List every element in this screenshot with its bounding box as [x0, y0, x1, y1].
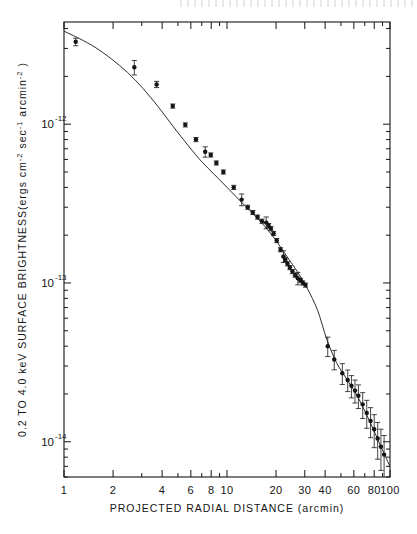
y-tick-exponent: -12 [55, 114, 67, 123]
data-point [209, 153, 213, 157]
data-point [303, 283, 307, 287]
data-point [221, 170, 225, 174]
data-point [194, 137, 198, 141]
data-point [353, 388, 357, 392]
x-tick-label: 6 [188, 484, 195, 496]
data-point [365, 411, 369, 415]
data-point [372, 427, 376, 431]
data-point [379, 445, 383, 449]
data-point [269, 226, 273, 230]
x-tick-label: 80 [368, 484, 381, 496]
data-point [368, 419, 372, 423]
y-tick-mantissa: 10 [41, 118, 54, 130]
data-point [382, 452, 386, 456]
data-point [260, 219, 264, 223]
data-point [154, 82, 158, 86]
data-point [345, 378, 349, 382]
data-point [132, 65, 136, 69]
data-point [245, 205, 249, 209]
x-tick-label: 30 [298, 484, 311, 496]
data-point [326, 344, 330, 348]
data-point [203, 150, 207, 154]
y-tick-exponent: -14 [55, 432, 67, 441]
y-tick-label: 10-13 [41, 273, 67, 289]
data-point [251, 210, 255, 214]
y-axis-title: 0.2 TO 4.0 keV SURFACE BRIGHTNESS(ergs c… [15, 62, 28, 437]
x-tick-label: 1 [61, 484, 68, 496]
y-tick-label: 10-12 [41, 114, 67, 130]
x-tick-label: 8 [208, 484, 215, 496]
x-tick-label: 4 [159, 484, 166, 496]
data-point [271, 231, 275, 235]
data-point [183, 123, 187, 127]
x-tick-label: 60 [347, 484, 360, 496]
data-point [214, 161, 218, 165]
x-tick-label: 10 [220, 484, 233, 496]
y-tick-exponent: -13 [55, 273, 67, 282]
data-point [255, 215, 259, 219]
y-tick-mantissa: 10 [41, 436, 54, 448]
plot-frame [64, 22, 390, 477]
data-point [275, 238, 279, 242]
x-tick-label: 40 [319, 484, 332, 496]
data-point [239, 197, 243, 201]
y-tick-label: 10-14 [41, 432, 67, 448]
y-axis-title-text: 0.2 TO 4.0 keV SURFACE BRIGHTNESS(ergs c… [15, 62, 28, 437]
figure-canvas: 1246810203040608010010-1210-1310-14PROJE… [0, 0, 417, 534]
data-point [73, 40, 77, 44]
data-series [73, 38, 387, 481]
x-tick-label: 20 [270, 484, 283, 496]
data-point [340, 371, 344, 375]
xray-surface-brightness-plot: 1246810203040608010010-1210-1310-14PROJE… [0, 0, 417, 534]
data-point [356, 393, 360, 397]
x-tick-label: 2 [110, 484, 117, 496]
x-tick-label: 100 [380, 484, 400, 496]
y-tick-mantissa: 10 [41, 277, 54, 289]
data-point [278, 247, 282, 251]
x-axis-title: PROJECTED RADIAL DISTANCE (arcmin) [110, 502, 345, 514]
data-point [360, 402, 364, 406]
data-point [332, 357, 336, 361]
data-point [171, 104, 175, 108]
data-point [283, 258, 287, 262]
data-point [349, 384, 353, 388]
data-point [375, 436, 379, 440]
data-point [232, 185, 236, 189]
fit-curve [64, 31, 390, 466]
